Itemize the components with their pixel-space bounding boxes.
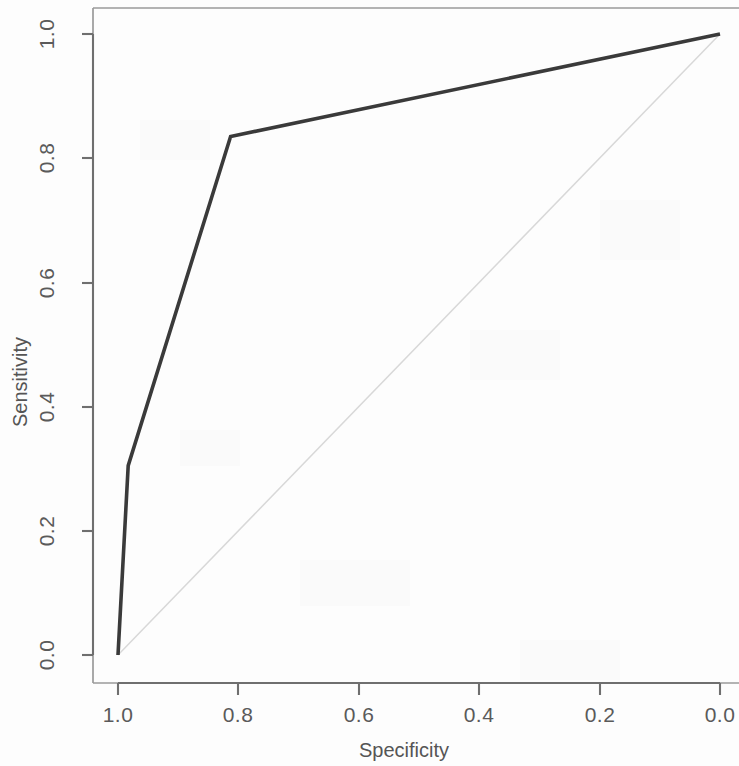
scan-grain-texture xyxy=(140,120,680,680)
x-tick-label-0.8: 0.8 xyxy=(223,703,254,726)
roc-curve-figure: 1.0 0.8 0.6 0.4 0.2 0.0 Sensitivity 1.0 … xyxy=(0,0,739,766)
x-tick-label-0.0: 0.0 xyxy=(705,703,736,726)
x-tick-label-0.2: 0.2 xyxy=(585,703,616,726)
y-axis xyxy=(82,34,93,655)
y-tick-label-0.4: 0.4 xyxy=(35,392,58,423)
y-axis-tick-labels: 1.0 0.8 0.6 0.4 0.2 0.0 xyxy=(35,19,58,671)
roc-plot-canvas: 1.0 0.8 0.6 0.4 0.2 0.0 Sensitivity 1.0 … xyxy=(0,0,739,766)
x-tick-label-0.6: 0.6 xyxy=(344,703,375,726)
x-tick-label-1.0: 1.0 xyxy=(103,703,134,726)
x-axis-tick-labels: 1.0 0.8 0.6 0.4 0.2 0.0 xyxy=(103,703,736,726)
y-tick-label-0.8: 0.8 xyxy=(35,143,58,174)
x-tick-label-0.4: 0.4 xyxy=(464,703,495,726)
y-tick-label-0.0: 0.0 xyxy=(35,640,58,671)
x-axis xyxy=(118,683,720,695)
x-axis-title: Specificity xyxy=(359,739,449,761)
y-tick-label-0.2: 0.2 xyxy=(35,516,58,547)
y-tick-label-0.6: 0.6 xyxy=(35,268,58,299)
y-tick-label-1.0: 1.0 xyxy=(35,19,58,50)
y-axis-title: Sensitivity xyxy=(9,337,31,427)
